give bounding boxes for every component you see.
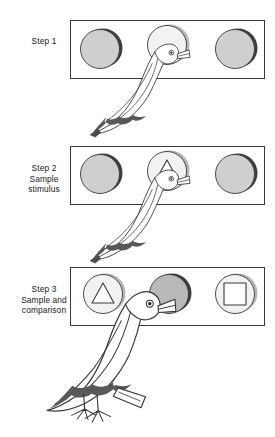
step-1-illustration <box>71 21 265 138</box>
step-3-label: Step 3 Sample and comparison <box>8 284 80 316</box>
step-2-label-line2: Sample <box>8 174 80 185</box>
figure-canvas <box>0 0 275 437</box>
step-1-label: Step 1 <box>8 36 80 47</box>
step-2-label-line3: stimulus <box>8 184 80 195</box>
matching-to-sample-figure: Step 1 Step 2 Sample stimulus Step 3 Sam… <box>0 0 275 437</box>
step-2-label-line1: Step 2 <box>8 163 80 174</box>
square-symbol <box>224 283 246 305</box>
step-2-illustration <box>71 147 265 264</box>
step-2-label: Step 2 Sample stimulus <box>8 163 80 195</box>
step-3-label-line3: comparison <box>8 305 80 316</box>
step-1-label-line1: Step 1 <box>8 36 80 47</box>
step-3-label-line2: Sample and <box>8 295 80 306</box>
step-3-label-line1: Step 3 <box>8 284 80 295</box>
